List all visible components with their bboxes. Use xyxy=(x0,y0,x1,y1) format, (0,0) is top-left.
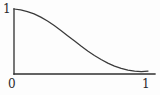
x-axis-origin-tick-label: 0 xyxy=(8,78,16,90)
x-axis-max-tick-label: 1 xyxy=(142,78,150,90)
chart-figure: 1 0 1 xyxy=(0,0,160,95)
y-axis-max-tick-label: 1 xyxy=(3,3,11,15)
plot-canvas xyxy=(0,0,160,95)
decay-curve xyxy=(14,9,148,72)
